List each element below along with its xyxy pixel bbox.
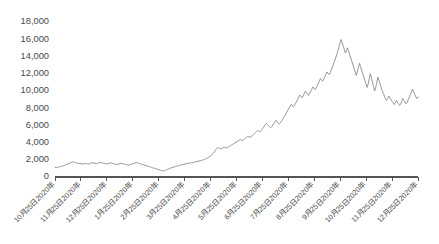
y-axis-tick-label: 16,000 [21,34,49,44]
y-axis-tick-label: 4,000 [26,137,49,147]
y-axis-labels: 18,00016,00014,00012,00010,0008,0006,000… [21,16,49,181]
y-axis-tick-label: 18,000 [21,16,49,26]
data-series-line [55,40,418,171]
line-chart: 18,00016,00014,00012,00010,0008,0006,000… [0,0,439,244]
x-axis-labels: 10月25日2020年11月25日2020年12月25日2020年1月25日20… [12,179,420,224]
y-axis-tick-label: 2,000 [26,154,49,164]
x-axis: 10月25日2020年11月25日2020年12月25日2020年1月25日20… [12,177,420,225]
x-axis-tick-marks [55,177,418,181]
y-axis-tick-label: 6,000 [26,120,49,130]
y-axis-tick-label: 8,000 [26,103,49,113]
y-axis-tick-label: 0 [44,171,49,181]
y-axis-tick-label: 12,000 [21,68,49,78]
y-axis-tick-label: 10,000 [21,85,49,95]
chart-canvas: 18,00016,00014,00012,00010,0008,0006,000… [0,0,439,244]
y-axis-tick-label: 14,000 [21,51,49,61]
